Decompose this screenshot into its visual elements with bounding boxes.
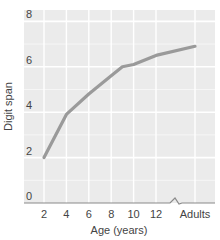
x-tick-label: 6 [86,208,92,220]
y-tick-label: 6 [26,54,32,66]
line-chart: 0246824681012AdultsAge (years)Digit span [0,0,220,240]
x-tick-label: 2 [41,208,47,220]
y-tick-label: 0 [26,190,32,202]
y-tick-label: 4 [26,99,32,111]
y-axis-label: Digit span [2,82,14,131]
x-tick-label: Adults [180,208,211,220]
x-tick-label: 8 [108,208,114,220]
x-tick-label: 10 [127,208,139,220]
y-tick-label: 2 [26,145,32,157]
x-tick-label: 4 [63,208,69,220]
digit-span-chart: 0246824681012AdultsAge (years)Digit span [0,0,220,240]
x-axis-label: Age (years) [91,224,148,236]
y-tick-label: 8 [26,8,32,20]
x-tick-label: 12 [150,208,162,220]
plot-area [24,10,215,203]
